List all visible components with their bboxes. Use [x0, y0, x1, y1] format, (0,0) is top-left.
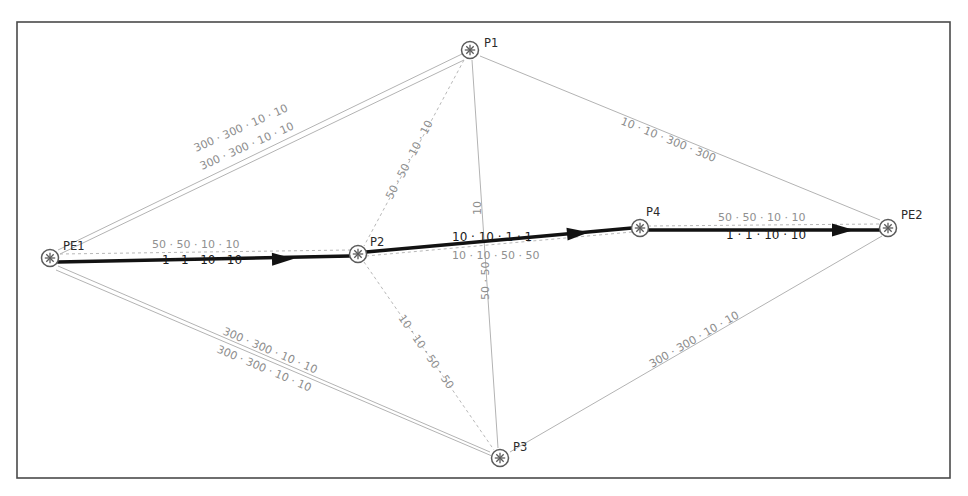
- metric-label-lsp-p2-p4: 10 · 10 · 1 · 1: [452, 230, 532, 244]
- metric-label-lsp-p4-pe2: 1 · 1 · 10 · 10: [726, 228, 806, 242]
- metric-label-p4-pe2-dashed: 50 · 50 · 10 · 10: [718, 211, 805, 224]
- metric-label-pe1-p2-dashed: 50 · 50 · 10 · 10: [152, 238, 239, 251]
- node-label-pe1: PE1: [63, 239, 85, 253]
- node-label-p4: P4: [646, 205, 660, 219]
- node-label-p3: P3: [513, 440, 527, 454]
- node-label-pe2: PE2: [901, 208, 923, 222]
- metric-label-lsp-pe1-p2: 1 · 1 · 10 · 10: [162, 253, 242, 267]
- diagram-canvas: PE1P1P2P3P4PE2 300 · 300 · 10 · 10300 · …: [0, 0, 968, 496]
- metric-label-p1-p3-bottom: 50 · 50: [479, 262, 492, 300]
- metric-label-p2-p4-dashed: 10 · 10 · 50 · 50: [452, 249, 539, 262]
- node-label-p1: P1: [484, 36, 498, 50]
- node-label-p2: P2: [370, 235, 384, 249]
- metric-label-p1-p3-top: 10: [471, 201, 484, 215]
- network-topology-diagram: PE1P1P2P3P4PE2 300 · 300 · 10 · 10300 · …: [0, 0, 968, 496]
